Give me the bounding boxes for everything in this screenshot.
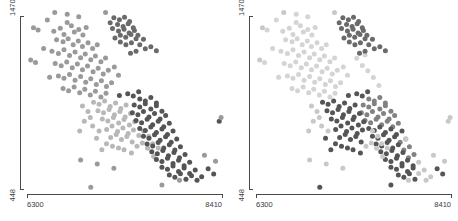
scatter-svg-right: 1470 448 6300 8410 bbox=[229, 0, 458, 221]
data-point bbox=[357, 51, 362, 56]
data-point bbox=[148, 44, 153, 49]
data-point bbox=[111, 15, 116, 20]
data-point bbox=[41, 46, 46, 51]
data-point bbox=[317, 76, 322, 81]
data-point bbox=[128, 32, 133, 37]
x-axis-max-label-right: 8410 bbox=[434, 200, 451, 209]
data-point bbox=[374, 141, 379, 146]
data-point bbox=[28, 58, 33, 63]
data-point bbox=[59, 63, 64, 68]
data-point bbox=[357, 111, 362, 116]
data-point bbox=[389, 148, 394, 153]
data-point bbox=[448, 115, 453, 120]
data-point bbox=[150, 144, 155, 149]
data-point bbox=[280, 29, 285, 34]
data-point bbox=[270, 46, 275, 51]
data-point bbox=[285, 51, 290, 56]
y-axis-line-left bbox=[20, 16, 24, 189]
data-point bbox=[136, 133, 141, 138]
data-point bbox=[306, 129, 311, 134]
data-point bbox=[324, 108, 329, 113]
data-point bbox=[290, 76, 295, 81]
data-point bbox=[58, 26, 63, 31]
x-axis-line-right bbox=[256, 194, 451, 198]
data-point bbox=[172, 175, 177, 180]
data-point bbox=[312, 80, 317, 85]
data-point bbox=[338, 80, 343, 85]
data-point bbox=[328, 78, 333, 83]
data-point bbox=[51, 29, 56, 34]
data-point bbox=[347, 33, 352, 38]
data-point bbox=[105, 118, 110, 123]
data-point bbox=[56, 51, 61, 56]
data-point bbox=[163, 134, 168, 139]
data-point bbox=[176, 158, 181, 163]
data-point bbox=[111, 115, 116, 120]
data-point bbox=[98, 94, 103, 99]
data-point bbox=[302, 49, 307, 54]
data-point bbox=[118, 40, 123, 45]
data-point bbox=[407, 144, 412, 149]
data-point bbox=[182, 166, 187, 171]
data-point bbox=[155, 151, 160, 156]
data-point bbox=[129, 40, 134, 45]
data-point bbox=[132, 103, 137, 108]
data-point bbox=[156, 140, 161, 145]
data-point bbox=[309, 44, 314, 49]
data-point bbox=[281, 10, 286, 15]
data-point bbox=[326, 129, 331, 134]
data-point bbox=[276, 75, 281, 80]
data-point bbox=[320, 100, 325, 105]
series-cluster-light bbox=[262, 12, 381, 100]
data-point bbox=[109, 80, 114, 85]
data-point bbox=[282, 61, 287, 66]
data-point bbox=[141, 109, 146, 114]
data-point bbox=[137, 126, 142, 131]
data-point bbox=[110, 124, 115, 129]
data-point bbox=[374, 146, 379, 151]
data-point bbox=[80, 44, 85, 49]
data-point bbox=[213, 159, 218, 164]
data-point bbox=[71, 42, 76, 47]
data-point bbox=[340, 15, 345, 20]
data-point bbox=[113, 101, 118, 106]
data-point bbox=[123, 42, 128, 47]
data-point bbox=[88, 57, 93, 62]
data-point bbox=[365, 68, 370, 73]
data-point bbox=[65, 12, 70, 17]
scatter-svg-left: 1470 448 6300 8410 bbox=[0, 0, 229, 221]
data-point bbox=[309, 104, 314, 109]
data-point bbox=[106, 68, 111, 73]
data-point bbox=[137, 42, 142, 47]
data-point bbox=[366, 96, 371, 101]
data-point bbox=[309, 67, 314, 72]
data-point bbox=[332, 55, 337, 60]
data-point bbox=[136, 89, 141, 94]
data-point bbox=[375, 134, 380, 139]
data-point bbox=[131, 128, 136, 133]
data-point bbox=[85, 64, 90, 69]
data-point bbox=[380, 154, 385, 159]
data-point bbox=[130, 110, 135, 115]
data-point bbox=[327, 94, 332, 99]
data-point bbox=[202, 153, 207, 158]
data-point bbox=[134, 49, 139, 54]
data-point bbox=[428, 174, 433, 179]
data-point bbox=[379, 141, 384, 146]
data-point bbox=[75, 62, 80, 67]
data-point bbox=[72, 29, 77, 34]
data-point bbox=[322, 89, 327, 94]
data-point bbox=[435, 166, 440, 171]
data-point bbox=[116, 73, 121, 78]
data-point bbox=[377, 107, 382, 112]
data-point bbox=[165, 156, 170, 161]
data-point bbox=[383, 48, 388, 53]
data-point bbox=[403, 136, 408, 141]
data-point bbox=[122, 117, 127, 122]
data-point bbox=[149, 149, 154, 154]
data-point bbox=[148, 107, 153, 112]
data-point bbox=[283, 37, 288, 42]
series-cluster-darkest-low bbox=[117, 89, 222, 182]
data-point bbox=[431, 153, 436, 158]
data-point bbox=[333, 84, 338, 89]
